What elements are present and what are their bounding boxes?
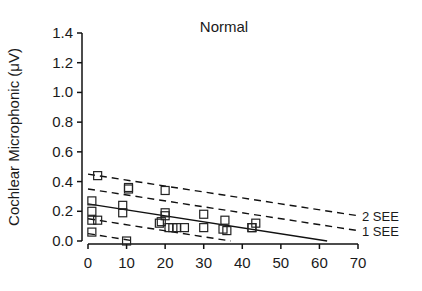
y-tick-label: 0.6	[52, 143, 73, 160]
data-point-square	[180, 224, 188, 232]
see-label: 2 SEE	[362, 209, 399, 224]
see-labels: 2 SEE1 SEE	[362, 209, 399, 239]
x-tick-label: 0	[84, 254, 92, 271]
x-tick-label: 40	[234, 254, 251, 271]
chart-title: Normal	[200, 18, 248, 35]
x-tick-label: 60	[311, 254, 328, 271]
data-point-square	[221, 216, 229, 224]
data-point-square	[88, 207, 96, 215]
x-axis: 010203040506070	[84, 244, 367, 271]
y-tick-label: 0.8	[52, 113, 73, 130]
x-tick-label: 50	[273, 254, 290, 271]
data-point-square	[161, 186, 169, 194]
x-tick-label: 10	[118, 254, 135, 271]
y-axis-label: Cochlear Microphonic (μV)	[5, 48, 22, 226]
x-tick-label: 20	[157, 254, 174, 271]
y-tick-label: 1.4	[52, 24, 73, 41]
see-label: 1 SEE	[362, 224, 399, 239]
y-tick-label: 0.4	[52, 173, 73, 190]
y-axis: 0.00.20.40.60.81.01.21.4	[52, 24, 82, 249]
y-tick-label: 0.2	[52, 202, 73, 219]
x-tick-label: 70	[350, 254, 367, 271]
x-tick-label: 30	[195, 254, 212, 271]
y-tick-label: 1.0	[52, 83, 73, 100]
y-tick-label: 0.0	[52, 232, 73, 249]
data-point-square	[200, 210, 208, 218]
chart: Normal Cochlear Microphonic (μV) 0.00.20…	[0, 0, 422, 291]
data-point-square	[200, 224, 208, 232]
y-tick-label: 1.2	[52, 54, 73, 71]
